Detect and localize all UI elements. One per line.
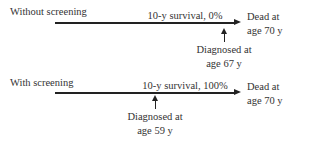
endpoint-line2-with-screening: age 70 y	[247, 95, 283, 107]
diagnosed-line1-with-screening: Diagnosed at	[115, 111, 195, 123]
diagnosis-marker-with-screening	[155, 100, 156, 109]
endpoint-line1-with-screening: Dead at	[247, 81, 279, 93]
diagnosed-line2-without-screening: age 67 y	[184, 58, 264, 70]
scenario-label-without-screening: Without screening	[10, 6, 87, 18]
diagnosed-line1-without-screening: Diagnosed at	[184, 44, 264, 56]
diagnosed-line2-with-screening: age 59 y	[115, 125, 195, 137]
survival-label-with-screening: 10-y survival, 100%	[125, 80, 245, 92]
survival-label-without-screening: 10-y survival, 0%	[130, 10, 240, 22]
arrow-right-icon	[234, 89, 241, 95]
endpoint-line1-without-screening: Dead at	[247, 11, 279, 23]
endpoint-line2-without-screening: age 70 y	[247, 25, 283, 37]
diagnosis-marker-without-screening	[224, 33, 225, 42]
timeline-with-screening	[55, 92, 235, 94]
timeline-without-screening	[55, 22, 235, 24]
scenario-label-with-screening: With screening	[10, 77, 73, 89]
arrow-right-icon	[234, 19, 241, 25]
